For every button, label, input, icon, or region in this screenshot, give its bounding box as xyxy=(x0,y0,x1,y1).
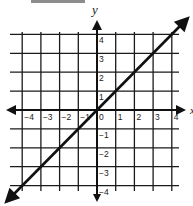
y-tick-label: −3 xyxy=(99,168,109,178)
x-tick-label: 4 xyxy=(174,112,179,122)
y-axis-label: y xyxy=(90,2,98,17)
y-tick-label: 2 xyxy=(99,73,104,83)
x-axis-label: x xyxy=(189,104,193,116)
x-tick-label: −4 xyxy=(24,112,34,122)
header-bar xyxy=(31,0,85,3)
y-axis-arrow-up-icon xyxy=(92,20,102,30)
y-tick-label: −2 xyxy=(99,149,109,159)
y-tick-label: −1 xyxy=(99,130,109,140)
y-tick-label: 1 xyxy=(99,92,104,102)
x-tick-label: 3 xyxy=(155,112,160,122)
x-tick-label: 1 xyxy=(118,112,123,122)
x-tick-label: −2 xyxy=(62,112,72,122)
coordinate-plane: −4−3−2−1012344321−1−2−3−4 x y xyxy=(0,0,193,206)
y-tick-label: 4 xyxy=(99,35,104,45)
coordinate-plane-figure: −4−3−2−1012344321−1−2−3−4 x y xyxy=(0,0,193,206)
x-axis-arrow-left-icon xyxy=(6,105,16,115)
x-tick-label: −3 xyxy=(43,112,53,122)
tick-labels: −4−3−2−1012344321−1−2−3−4 xyxy=(24,35,179,196)
x-tick-label: 0 xyxy=(99,112,104,122)
y-tick-label: 3 xyxy=(99,54,104,64)
x-tick-label: 2 xyxy=(136,112,141,122)
y-tick-label: −4 xyxy=(99,187,109,197)
